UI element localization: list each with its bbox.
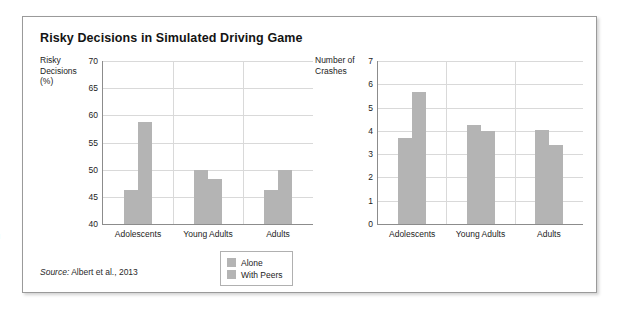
y-axis-title-number-of-crashes: Number of Crashes [315,55,371,76]
bar-with-peers [412,92,426,224]
y-tick-label: 60 [89,110,98,120]
gridline [103,115,313,116]
page-edge-glyph: ) [0,224,4,246]
legend-item: With Peers [227,269,283,280]
chart-legend: Alone With Peers [220,251,293,286]
y-tick-label: 5 [368,103,373,113]
gridline [103,88,313,89]
bar-alone [194,170,208,224]
group-separator [243,61,244,224]
gridline [378,61,583,62]
gridline [378,84,583,85]
y-tick-label: 40 [89,219,98,229]
x-tick-label: Adolescents [115,229,161,239]
bar-with-peers [278,170,292,224]
figure-card: Risky Decisions in Simulated Driving Gam… [22,16,597,293]
gridline [103,143,313,144]
legend-swatch-with-peers [227,270,236,279]
y-tick-label: 7 [368,56,373,66]
chart-number-of-crashes: Number of Crashes 01234567AdolescentsYou… [315,55,590,245]
y-tick-label: 1 [368,196,373,206]
bar-with-peers [208,179,222,224]
y-tick-label: 6 [368,79,373,89]
bar-alone [467,125,481,224]
legend-item: Alone [227,257,283,268]
x-tick-label: Adolescents [389,229,435,239]
x-tick-label: Young Adults [456,229,505,239]
bar-with-peers [549,145,563,224]
y-tick-label: 0 [368,219,373,229]
legend-label-alone: Alone [241,258,263,268]
y-tick-label: 55 [89,138,98,148]
y-tick-label: 2 [368,172,373,182]
source-caption: Source: Albert et al., 2013 [40,267,138,277]
y-tick-label: 50 [89,165,98,175]
group-separator [515,61,516,224]
bar-alone [124,190,138,224]
gridline [378,108,583,109]
x-tick-label: Young Adults [183,229,232,239]
source-label: Source: [40,267,69,277]
bar-alone [398,138,412,224]
bar-with-peers [138,122,152,224]
legend-label-with-peers: With Peers [241,270,283,280]
plot-area-number-of-crashes: 01234567AdolescentsYoung AdultsAdults [377,61,583,225]
figure-title: Risky Decisions in Simulated Driving Gam… [40,31,303,45]
source-citation: Albert et al., 2013 [69,267,138,277]
plot-area-risky-decisions: 40455055606570AdolescentsYoung AdultsAdu… [102,61,313,225]
gridline [103,61,313,62]
bar-alone [264,190,278,224]
x-tick-label: Adults [266,229,290,239]
legend-swatch-alone [227,258,236,267]
y-tick-label: 70 [89,56,98,66]
y-tick-label: 3 [368,149,373,159]
group-separator [446,61,447,224]
bar-with-peers [481,131,495,224]
y-tick-label: 4 [368,126,373,136]
x-tick-label: Adults [537,229,561,239]
page-canvas: ) Risky Decisions in Simulated Driving G… [0,0,620,316]
y-tick-label: 45 [89,192,98,202]
y-tick-label: 65 [89,83,98,93]
bar-alone [535,130,549,224]
group-separator [173,61,174,224]
chart-risky-decisions: Risky Decisions (%) 40455055606570Adoles… [40,55,320,245]
